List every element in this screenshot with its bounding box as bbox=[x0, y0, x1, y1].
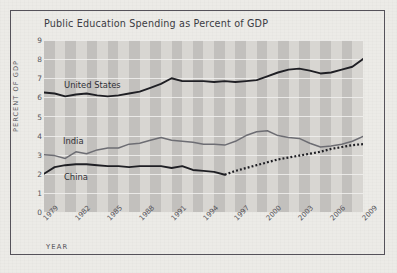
y-tick-4: 4 bbox=[32, 132, 42, 141]
y-tick-2: 2 bbox=[32, 170, 42, 179]
india-label: India bbox=[63, 136, 84, 146]
y-tick-3: 3 bbox=[32, 151, 42, 160]
y-tick-1: 1 bbox=[32, 189, 42, 198]
x-axis-label: YEAR bbox=[46, 243, 68, 251]
series-line-china-projected bbox=[225, 144, 363, 175]
united-states-label: United States bbox=[64, 80, 121, 90]
y-tick-6: 6 bbox=[32, 93, 42, 102]
y-tick-7: 7 bbox=[32, 74, 42, 83]
plot-area bbox=[44, 40, 363, 212]
series-lines bbox=[44, 40, 363, 212]
series-line-united-states bbox=[44, 59, 363, 96]
y-tick-8: 8 bbox=[32, 55, 42, 64]
series-line-india bbox=[44, 131, 363, 159]
y-tick-9: 9 bbox=[32, 36, 42, 45]
y-tick-5: 5 bbox=[32, 113, 42, 122]
y-axis-label: PERCENT OF GDP bbox=[12, 60, 20, 132]
chart-title: Public Education Spending as Percent of … bbox=[44, 18, 268, 29]
china-label: China bbox=[64, 172, 88, 182]
chart-figure: Public Education Spending as Percent of … bbox=[0, 0, 397, 273]
